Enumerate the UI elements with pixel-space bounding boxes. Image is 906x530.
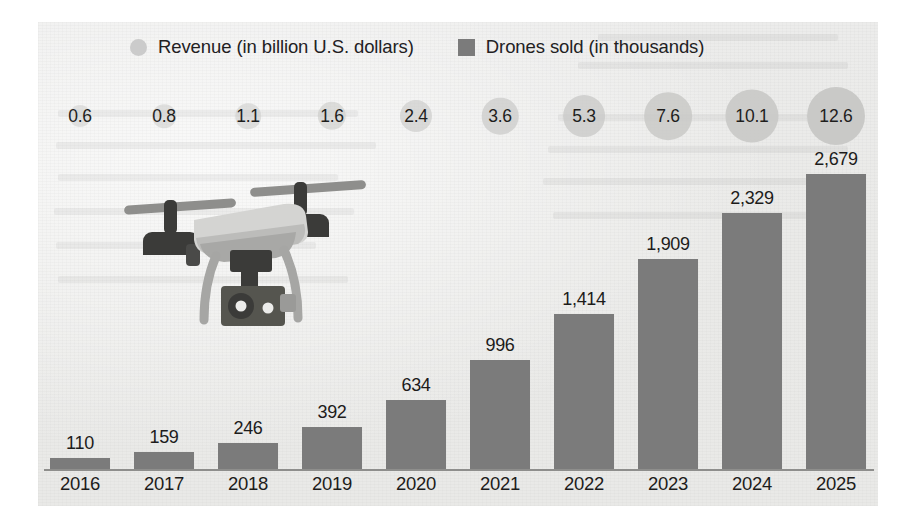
revenue-bubble: 1.1 bbox=[210, 85, 286, 147]
revenue-bubble: 2.4 bbox=[378, 85, 454, 147]
revenue-bubble: 12.6 bbox=[798, 85, 874, 147]
bar-rect bbox=[218, 443, 278, 470]
bar-group: 110 bbox=[50, 150, 110, 470]
legend-item-revenue: Revenue (in billion U.S. dollars) bbox=[130, 36, 414, 58]
revenue-bubble: 10.1 bbox=[714, 85, 790, 147]
bar-group: 2,679 bbox=[806, 150, 866, 470]
bar-value-label: 634 bbox=[401, 375, 430, 396]
x-tick-label: 2024 bbox=[710, 473, 794, 495]
revenue-bubble-value: 0.8 bbox=[152, 106, 176, 127]
revenue-bubble: 0.8 bbox=[126, 85, 202, 147]
x-tick-label: 2019 bbox=[290, 473, 374, 495]
bar-value-label: 1,909 bbox=[646, 234, 690, 255]
revenue-bubble: 1.6 bbox=[294, 85, 370, 147]
revenue-bubble-value: 12.6 bbox=[819, 106, 852, 127]
square-marker-icon bbox=[458, 39, 475, 56]
revenue-bubble: 0.6 bbox=[42, 85, 118, 147]
revenue-bubble-value: 1.6 bbox=[320, 106, 344, 127]
x-tick-label: 2022 bbox=[542, 473, 626, 495]
bar-group: 2,329 bbox=[722, 150, 782, 470]
revenue-bubble-value: 7.6 bbox=[656, 106, 680, 127]
bar-rect bbox=[554, 314, 614, 470]
revenue-bubble-value: 5.3 bbox=[572, 106, 596, 127]
bar-rect bbox=[302, 427, 362, 470]
revenue-bubble: 7.6 bbox=[630, 85, 706, 147]
revenue-bubble: 5.3 bbox=[546, 85, 622, 147]
bar-value-label: 1,414 bbox=[562, 289, 606, 310]
bar-group: 634 bbox=[386, 150, 446, 470]
revenue-bubble-value: 3.6 bbox=[488, 106, 512, 127]
bar-group: 246 bbox=[218, 150, 278, 470]
bar-group: 392 bbox=[302, 150, 362, 470]
bar-plot-area: 1101592463926349961,4141,9092,3292,679 bbox=[38, 150, 878, 470]
legend-label-revenue: Revenue (in billion U.S. dollars) bbox=[158, 36, 414, 58]
revenue-bubble-value: 0.6 bbox=[68, 106, 92, 127]
revenue-bubble: 3.6 bbox=[462, 85, 538, 147]
x-tick-label: 2021 bbox=[458, 473, 542, 495]
bar-value-label: 2,679 bbox=[814, 149, 858, 170]
revenue-bubble-value: 10.1 bbox=[735, 106, 768, 127]
bar-value-label: 2,329 bbox=[730, 188, 774, 209]
legend-label-drones-sold: Drones sold (in thousands) bbox=[486, 36, 705, 58]
bar-rect bbox=[386, 400, 446, 470]
bar-group: 996 bbox=[470, 150, 530, 470]
bar-rect bbox=[470, 360, 530, 470]
bleed-through-text bbox=[578, 62, 848, 69]
x-tick-label: 2017 bbox=[122, 473, 206, 495]
x-tick-label: 2023 bbox=[626, 473, 710, 495]
bar-value-label: 159 bbox=[149, 427, 178, 448]
chart-figure: Revenue (in billion U.S. dollars) Drones… bbox=[0, 0, 906, 530]
x-tick-label: 2016 bbox=[38, 473, 122, 495]
revenue-bubble-value: 2.4 bbox=[404, 106, 428, 127]
x-tick-label: 2018 bbox=[206, 473, 290, 495]
x-axis-tick-labels: 2016201720182019202020212022202320242025 bbox=[38, 473, 878, 503]
legend-item-drones-sold: Drones sold (in thousands) bbox=[458, 36, 705, 58]
bar-rect bbox=[134, 452, 194, 470]
bar-value-label: 110 bbox=[66, 433, 94, 454]
revenue-bubble-value: 1.1 bbox=[236, 106, 260, 127]
bar-group: 159 bbox=[134, 150, 194, 470]
bar-rect bbox=[638, 259, 698, 470]
x-axis-line bbox=[44, 469, 874, 471]
bar-value-label: 246 bbox=[233, 418, 262, 439]
circle-marker-icon bbox=[130, 39, 147, 56]
bar-group: 1,414 bbox=[554, 150, 614, 470]
revenue-bubble-row: 0.60.81.11.62.43.65.37.610.112.6 bbox=[38, 85, 878, 147]
chart-legend: Revenue (in billion U.S. dollars) Drones… bbox=[130, 36, 704, 58]
bar-group: 1,909 bbox=[638, 150, 698, 470]
bar-value-label: 392 bbox=[317, 402, 346, 423]
x-tick-label: 2020 bbox=[374, 473, 458, 495]
x-tick-label: 2025 bbox=[794, 473, 878, 495]
bar-value-label: 996 bbox=[485, 335, 514, 356]
bar-rect bbox=[722, 213, 782, 470]
bar-rect bbox=[806, 174, 866, 470]
